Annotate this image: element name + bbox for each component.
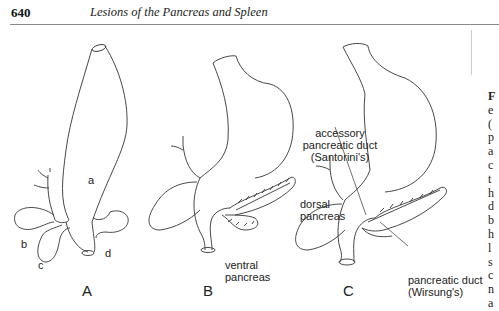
panel-label-a: A bbox=[82, 282, 92, 299]
page-number: 640 bbox=[11, 5, 31, 21]
header-rule bbox=[10, 24, 499, 25]
panel-label-b: B bbox=[203, 282, 213, 299]
label-b: b bbox=[21, 238, 27, 250]
embryology-figure: a b c d A dorsal pancreas ventral pancre… bbox=[0, 30, 499, 304]
ventral-pancreas-label: ventral pancreas bbox=[225, 259, 270, 283]
running-title: Lesions of the Pancreas and Spleen bbox=[90, 5, 268, 20]
side-column-text: F e ( p a c t h d b h l s c n a bbox=[488, 90, 499, 311]
main-duct-label: pancreatic duct (Wirsung's) bbox=[408, 274, 483, 298]
panel-label-c: C bbox=[343, 282, 354, 299]
accessory-duct-label: accessory pancreatic duct (Santorini's) bbox=[295, 127, 385, 163]
label-d: d bbox=[105, 247, 111, 259]
page-header: 640 Lesions of the Pancreas and Spleen bbox=[0, 0, 499, 30]
panel-b-drawing bbox=[149, 56, 295, 253]
dorsal-pancreas-label: dorsal pancreas bbox=[300, 198, 345, 222]
label-a: a bbox=[88, 174, 94, 186]
label-c: c bbox=[38, 259, 44, 271]
panel-a-drawing bbox=[15, 43, 129, 262]
